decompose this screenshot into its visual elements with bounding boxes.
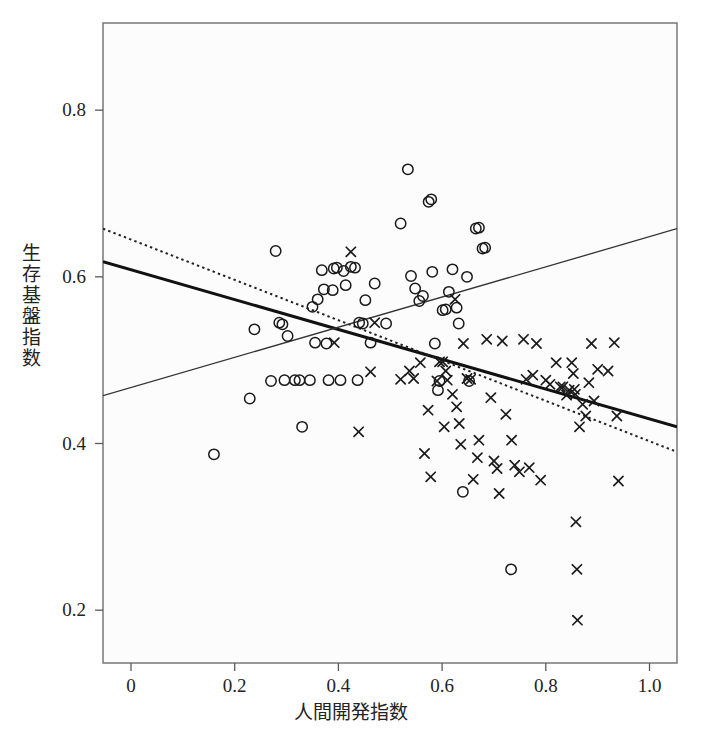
y-axis-title: 生存基盤指数 [14, 243, 44, 369]
y-tick-label: 0.6 [46, 266, 86, 288]
y-tick-label: 0.4 [46, 433, 86, 455]
x-tick-label: 0.2 [223, 675, 247, 697]
x-tick-label: 0.4 [327, 675, 351, 697]
x-tick-label: 0 [126, 675, 136, 697]
x-tick-label: 1.0 [638, 675, 662, 697]
plot-canvas [0, 0, 702, 739]
x-tick-label: 0.6 [430, 675, 454, 697]
x-axis-title: 人間開発指数 [0, 697, 702, 724]
x-tick-label: 0.8 [534, 675, 558, 697]
y-tick-label: 0.2 [46, 599, 86, 621]
scatter-plot-figure: 00.20.40.60.81.00.20.40.60.8 人間開発指数 生存基盤… [0, 0, 702, 739]
y-tick-label: 0.8 [46, 99, 86, 121]
